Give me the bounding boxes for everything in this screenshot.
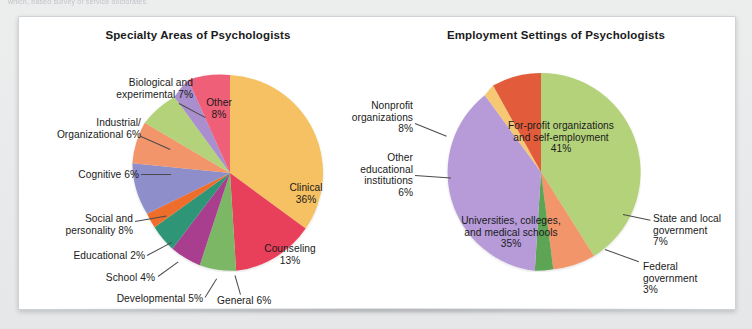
chart-title-specialty-areas: Specialty Areas of Psychologists bbox=[19, 29, 377, 41]
pie-label-federal-government: Federal government 3% bbox=[643, 261, 729, 296]
pie-label-nonprofit: Nonprofit organizations 8% bbox=[315, 100, 413, 135]
pie-label-cognitive: Cognitive 6% bbox=[45, 169, 139, 181]
figure-page: which, based survey of service doctorate… bbox=[0, 0, 752, 329]
pie-label-other-educational: Other educational institutions 6% bbox=[313, 152, 413, 198]
pie-label-school: School 4% bbox=[77, 272, 155, 284]
pie-label-social-personality: Social and personality 8% bbox=[37, 213, 133, 236]
pie-label-general: General 6% bbox=[217, 295, 297, 307]
pie-label-universities: Universities, colleges, and medical scho… bbox=[445, 215, 577, 250]
leader-line-general bbox=[235, 275, 241, 295]
chart-title-employment-settings: Employment Settings of Psychologists bbox=[377, 29, 735, 41]
pie-label-educational: Educational 2% bbox=[51, 250, 145, 262]
pie-label-industrial-organizational: Industrial/ Organizational 6% bbox=[33, 117, 141, 140]
figure-card: Specialty Areas of Psychologists bbox=[18, 16, 736, 310]
pie-label-biological-experimental: Biological and experimental 7% bbox=[73, 77, 193, 100]
pie-label-developmental: Developmental 5% bbox=[87, 293, 203, 305]
pie-label-state-local-government: State and local government 7% bbox=[653, 213, 747, 248]
leader-line-developmental bbox=[205, 279, 218, 298]
cropped-caption-text: which, based survey of service doctorate… bbox=[8, 0, 148, 5]
pie-label-for-profit: For-profit organizations and self-employ… bbox=[493, 120, 629, 155]
pie-label-counseling: Counseling 13% bbox=[249, 243, 331, 266]
chart-panel-employment-settings: Employment Settings of Psychologists bbox=[377, 17, 735, 309]
leader-line-cognitive bbox=[141, 174, 171, 175]
cropped-caption-strip: which, based survey of service doctorate… bbox=[0, 0, 752, 14]
